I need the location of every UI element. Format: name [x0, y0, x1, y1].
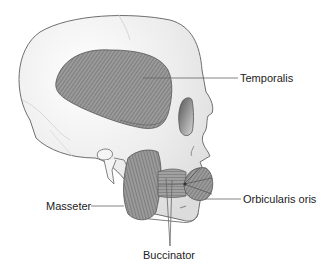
label-masseter: Masseter [46, 200, 91, 212]
label-temporalis: Temporalis [240, 72, 293, 84]
label-buccinator: Buccinator [143, 249, 195, 261]
masseter-muscle [124, 150, 162, 220]
label-orbicularis-oris: Orbicularis oris [243, 193, 316, 205]
diagram-artwork [0, 0, 331, 271]
skull-muscle-diagram: Temporalis Masseter Orbicularis oris Buc… [0, 0, 331, 271]
